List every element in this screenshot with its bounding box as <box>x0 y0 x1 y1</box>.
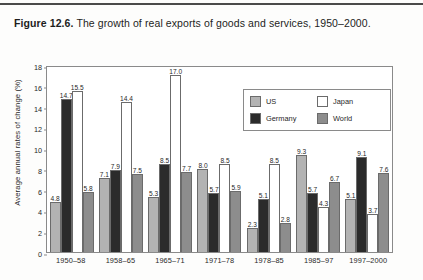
bar-value-label: 7.9 <box>111 163 120 170</box>
bar-value-label: 7.7 <box>182 165 191 172</box>
bar-value-label: 5.9 <box>231 184 240 191</box>
legend-label-world: World <box>333 114 352 123</box>
x-label-1997–2000: 1997–2000 <box>343 256 393 265</box>
bar-germany-1950–58: 14.7 <box>61 99 72 252</box>
bar-group: 4.814.715.55.8 <box>47 67 96 252</box>
legend-item-us: US <box>250 96 317 107</box>
legend-label-us: US <box>266 97 276 106</box>
bar-value-label: 5.3 <box>149 190 158 197</box>
bar-value-label: 5.1 <box>346 192 355 199</box>
bar-germany-1971–78: 5.7 <box>208 193 219 252</box>
y-tick-2: 2 <box>38 229 47 238</box>
bar-germany-1978–85: 5.1 <box>258 199 269 252</box>
figure-caption: Figure 12.6. The growth of real exports … <box>14 16 414 30</box>
bar-us-1971–78: 8.0 <box>197 169 208 252</box>
bar-us-1978–85: 2.3 <box>247 228 258 252</box>
bar-value-label: 6.7 <box>330 175 339 182</box>
bar-germany-1958–65: 7.9 <box>110 170 121 252</box>
bar-group: 7.17.914.47.5 <box>96 67 145 252</box>
bar-group: 8.05.78.55.9 <box>195 67 244 252</box>
y-axis-title: Average annual rates of change (%) <box>13 58 22 228</box>
bar-value-label: 14.7 <box>60 92 73 99</box>
y-tick-12: 12 <box>34 125 47 134</box>
bar-value-label: 17.0 <box>169 68 182 75</box>
y-tick-8: 8 <box>38 166 47 175</box>
legend-swatch-us-icon <box>250 96 261 107</box>
bar-value-label: 9.3 <box>297 148 306 155</box>
bar-value-label: 5.7 <box>209 186 218 193</box>
bar-value-label: 15.5 <box>71 84 84 91</box>
bar-value-label: 5.1 <box>259 192 268 199</box>
bar-japan-1950–58: 15.5 <box>72 91 83 252</box>
bar-us-1965–71: 5.3 <box>148 197 159 252</box>
bar-world-1950–58: 5.8 <box>83 192 94 252</box>
legend-label-japan: Japan <box>333 97 353 106</box>
bar-world-1965–71: 7.7 <box>181 172 192 252</box>
legend-item-japan: Japan <box>317 96 384 107</box>
bar-value-label: 8.5 <box>220 157 229 164</box>
bar-germany-1965–71: 8.5 <box>159 164 170 252</box>
bar-value-label: 7.6 <box>379 166 388 173</box>
bar-japan-1971–78: 8.5 <box>219 164 230 252</box>
x-label-1965–71: 1965–71 <box>145 256 195 265</box>
y-tick-16: 16 <box>34 83 47 92</box>
legend-label-germany: Germany <box>266 114 296 123</box>
bar-value-label: 8.5 <box>160 157 169 164</box>
x-axis-labels: 1950–581958–651965–711971–781978–851985–… <box>46 256 393 265</box>
legend-swatch-japan-icon <box>317 96 328 107</box>
figure-number: Figure 12.6. <box>14 17 74 29</box>
bar-us-1997–2000: 5.1 <box>345 199 356 252</box>
y-tick-10: 10 <box>34 146 47 155</box>
bar-value-label: 5.7 <box>308 186 317 193</box>
legend-item-world: World <box>317 113 384 124</box>
bar-japan-1958–65: 14.4 <box>121 102 132 252</box>
bar-world-1997–2000: 7.6 <box>378 173 389 252</box>
bar-world-1978–85: 2.8 <box>280 223 291 252</box>
bar-value-label: 7.1 <box>100 171 109 178</box>
plot-frame: 024681012141618 4.814.715.55.87.17.914.4… <box>46 66 393 253</box>
bar-value-label: 8.5 <box>270 157 279 164</box>
bar-world-1985–97: 6.7 <box>329 182 340 252</box>
x-label-1971–78: 1971–78 <box>195 256 245 265</box>
legend-item-germany: Germany <box>250 113 317 124</box>
figure-caption-text: The growth of real exports of goods and … <box>74 17 371 29</box>
x-label-1978–85: 1978–85 <box>244 256 294 265</box>
bar-value-label: 4.3 <box>319 200 328 207</box>
bar-world-1958–65: 7.5 <box>132 174 143 252</box>
bar-germany-1997–2000: 9.1 <box>356 157 367 252</box>
bar-value-label: 3.7 <box>368 207 377 214</box>
chart-legend: US Japan Germany World <box>243 89 391 131</box>
bar-value-label: 2.8 <box>281 216 290 223</box>
bar-value-label: 9.1 <box>357 150 366 157</box>
bar-value-label: 7.5 <box>133 167 142 174</box>
bar-japan-1985–97: 4.3 <box>318 207 329 252</box>
y-tick-14: 14 <box>34 104 47 113</box>
bar-value-label: 2.3 <box>248 221 257 228</box>
x-label-1950–58: 1950–58 <box>46 256 96 265</box>
bar-us-1958–65: 7.1 <box>99 178 110 252</box>
bar-japan-1965–71: 17.0 <box>170 75 181 252</box>
chart-area: Average annual rates of change (%) 02468… <box>0 60 423 280</box>
y-tick-18: 18 <box>34 63 47 72</box>
bar-germany-1985–97: 5.7 <box>307 193 318 252</box>
top-divider-rule <box>0 3 423 5</box>
bar-world-1971–78: 5.9 <box>230 191 241 252</box>
bar-us-1950–58: 4.8 <box>50 202 61 252</box>
bar-japan-1997–2000: 3.7 <box>367 214 378 252</box>
legend-swatch-world-icon <box>317 113 328 124</box>
x-label-1985–97: 1985–97 <box>294 256 344 265</box>
y-tick-4: 4 <box>38 208 47 217</box>
figure-page: Figure 12.6. The growth of real exports … <box>0 0 423 280</box>
bar-value-label: 14.4 <box>120 95 133 102</box>
bar-us-1985–97: 9.3 <box>296 155 307 252</box>
bar-value-label: 4.8 <box>51 195 60 202</box>
bar-value-label: 8.0 <box>198 162 207 169</box>
bar-value-label: 5.8 <box>84 185 93 192</box>
bar-group: 5.38.517.07.7 <box>146 67 195 252</box>
x-label-1958–65: 1958–65 <box>96 256 146 265</box>
y-tick-6: 6 <box>38 187 47 196</box>
legend-swatch-germany-icon <box>250 113 261 124</box>
bar-japan-1978–85: 8.5 <box>269 164 280 252</box>
